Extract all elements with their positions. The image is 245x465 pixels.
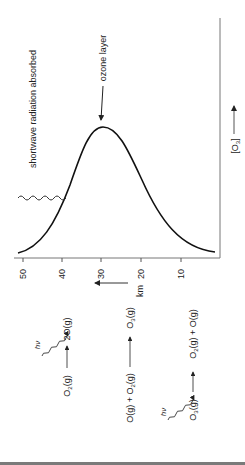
reaction-1-product: 2O(g) — [62, 317, 72, 340]
tick-label-30: 30 — [96, 269, 106, 279]
reaction-3-products: O2(g) + O(g) — [188, 309, 199, 359]
tick-label-10: 10 — [176, 269, 186, 279]
reaction-1: hν O2(g) 2O(g) — [33, 317, 73, 396]
concentration-axis-label: [O3] — [230, 138, 241, 153]
reaction-3: hν O3(g) O2(g) + O(g) — [159, 309, 199, 420]
reaction-3-photon: hν — [159, 408, 168, 416]
ozone-diagram: 50 40 30 20 10 shortwave radiation absor… — [0, 0, 245, 465]
tick-label-50: 50 — [18, 269, 28, 279]
reaction-2-reactants: O(g) + O2(g) — [125, 373, 136, 423]
shortwave-annotation: shortwave radiation absorbed — [28, 50, 38, 168]
tick-label-20: 20 — [136, 269, 146, 279]
ozone-layer-annotation: ozone layer — [98, 35, 108, 82]
reaction-2-product: O3(g) — [125, 307, 136, 328]
reaction-1-photon: hν — [33, 341, 42, 349]
chart-axes — [14, 18, 220, 262]
altitude-axis-label: km — [135, 285, 145, 297]
reaction-3-reactant: O3(g) — [188, 399, 199, 420]
tick-label-40: 40 — [57, 269, 67, 279]
tick-labels: 50 40 30 20 10 — [18, 269, 186, 279]
reaction-1-reactant: O2(g) — [62, 375, 73, 396]
reaction-2: O(g) + O2(g) O3(g) — [125, 307, 136, 422]
shortwave-radiation-wave-icon — [18, 196, 66, 200]
ozone-concentration-curve — [18, 127, 215, 253]
ozone-layer-pointer-arrow — [101, 86, 103, 120]
